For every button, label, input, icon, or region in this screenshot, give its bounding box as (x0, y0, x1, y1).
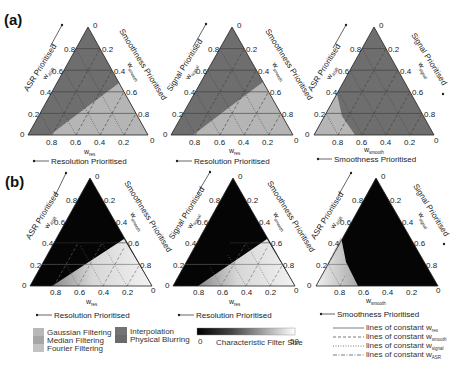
svg-text:0.2: 0.2 (390, 196, 402, 205)
svg-text:wsmooth: wsmooth (365, 297, 386, 306)
svg-text:0: 0 (165, 281, 170, 290)
svg-text:0.4: 0.4 (400, 67, 412, 76)
svg-text:0: 0 (379, 21, 384, 30)
svg-text:0.2: 0.2 (388, 45, 400, 54)
ternary-plot-b1: 0 0.8 0.6 0.4 0.2 0 0.2 0.4 0.6 0.8 0 0.… (22, 172, 174, 320)
svg-text:wsmooth: wsmooth (363, 146, 384, 155)
svg-text:0.4: 0.4 (238, 138, 250, 147)
svg-text:0.8: 0.8 (193, 288, 205, 297)
svg-text:wres: wres (228, 298, 241, 307)
svg-text:0.8: 0.8 (332, 138, 344, 147)
bottom-axis-title: Smoothness Prioritised (334, 155, 416, 164)
svg-text:0.4: 0.4 (94, 138, 106, 147)
svg-text:0.2: 0.2 (28, 110, 40, 119)
svg-text:0.6: 0.6 (128, 239, 140, 248)
svg-text:0.2: 0.2 (122, 288, 134, 297)
svg-text:0: 0 (150, 136, 155, 145)
svg-text:0: 0 (151, 286, 156, 295)
svg-text:0.4: 0.4 (116, 218, 128, 227)
bottom-axis-title: Resolution Prioritised (54, 311, 130, 320)
bottom-axis-title: Smoothness Prioritised (337, 310, 419, 319)
colorbar: 0 50 Characteristic Filter Size (197, 328, 303, 347)
svg-text:0.6: 0.6 (358, 288, 370, 297)
svg-text:0: 0 (20, 130, 25, 139)
svg-text:0.2: 0.2 (314, 110, 326, 119)
svg-text:0.2: 0.2 (102, 45, 114, 54)
svg-text:0: 0 (237, 21, 242, 30)
svg-text:0: 0 (294, 136, 299, 145)
svg-text:0.8: 0.8 (334, 288, 346, 297)
svg-text:0.2: 0.2 (247, 196, 259, 205)
bottom-axis-title: Resolution Prioritised (51, 157, 127, 166)
svg-text:0: 0 (434, 136, 439, 145)
svg-text:0.4: 0.4 (402, 218, 414, 227)
line-style-legend: lines of constant wres lines of constant… (333, 323, 447, 360)
svg-text:0.4: 0.4 (184, 88, 196, 97)
right-axis-title: Signal Prioritised (411, 182, 450, 238)
svg-text:0.4: 0.4 (258, 67, 270, 76)
svg-text:0.4: 0.4 (114, 67, 126, 76)
svg-text:0.6: 0.6 (338, 67, 350, 76)
svg-text:0.6: 0.6 (271, 239, 283, 248)
svg-text:0.4: 0.4 (380, 138, 392, 147)
svg-text:0.2: 0.2 (406, 288, 418, 297)
svg-text:0.4: 0.4 (241, 288, 253, 297)
ternary-figure: (a) (b) 0 0.8 0.6 0.4 0.2 0 (0, 0, 461, 378)
left-axis-title: ASR Prioritised (309, 190, 345, 241)
svg-text:0.8: 0.8 (209, 196, 221, 205)
bottom-axis-title: Resolution Prioritised (196, 311, 272, 320)
panel-label-a: (a) (4, 11, 22, 28)
svg-text:0: 0 (163, 130, 168, 139)
svg-text:0.8: 0.8 (282, 110, 294, 119)
svg-text:0: 0 (238, 172, 243, 181)
colorbar-label: Characteristic Filter Size (216, 338, 303, 347)
method-legend: Gaussian Filtering Median Filtering Four… (33, 327, 190, 353)
svg-text:0: 0 (95, 172, 100, 181)
svg-text:wres: wres (85, 298, 98, 307)
right-axis-title: Signal Prioritised (409, 31, 448, 87)
svg-text:0: 0 (294, 286, 299, 295)
svg-text:0.4: 0.4 (259, 218, 271, 227)
right-axis-title: Smoothness Prioritised (117, 27, 168, 102)
ternary-plot-b3: 0 0.8 0.6 0.4 0.2 0 0.2 0.4 0.6 0.8 0 0.… (307, 172, 451, 319)
svg-text:0.8: 0.8 (50, 288, 62, 297)
legend-fourier: Fourier Filtering (47, 344, 103, 353)
svg-text:0.2: 0.2 (404, 138, 416, 147)
svg-text:0.4: 0.4 (42, 239, 54, 248)
svg-text:0.4: 0.4 (382, 288, 394, 297)
ternary-plot-a2: 0 0.8 0.6 0.4 0.2 0 0.2 0.4 0.6 0.8 0 0.… (163, 21, 315, 166)
colorbar-min: 0 (198, 337, 203, 346)
svg-text:0: 0 (22, 281, 27, 290)
ternary-plot-a1: 0 0.8 0.6 0.4 0.2 0 0.2 0.4 0.6 0.8 0 0.… (20, 21, 169, 166)
svg-text:0.2: 0.2 (30, 261, 42, 270)
svg-text:0.6: 0.6 (214, 138, 226, 147)
svg-text:0.8: 0.8 (138, 110, 150, 119)
svg-text:0.4: 0.4 (98, 288, 110, 297)
left-axis-title: Signal Prioritised (165, 37, 204, 93)
ternary-plot-b2: 0 0.8 0.6 0.4 0.2 0 0.2 0.4 0.6 0.8 0 0.… (165, 171, 317, 320)
svg-text:0.6: 0.6 (74, 288, 86, 297)
svg-text:0.6: 0.6 (70, 138, 82, 147)
svg-text:0.4: 0.4 (40, 88, 52, 97)
svg-text:0.6: 0.6 (217, 288, 229, 297)
svg-text:0.2: 0.2 (262, 138, 274, 147)
svg-text:0.6: 0.6 (414, 239, 426, 248)
svg-text:0.8: 0.8 (140, 261, 152, 270)
svg-text:0.8: 0.8 (64, 45, 76, 54)
svg-text:0.6: 0.6 (126, 88, 138, 97)
svg-text:0.6: 0.6 (412, 88, 424, 97)
svg-text:0.8: 0.8 (283, 261, 295, 270)
svg-text:0.4: 0.4 (326, 88, 338, 97)
svg-text:0: 0 (381, 172, 386, 181)
ternary-plot-a3: 0 0.8 0.6 0.4 0.2 0 0.2 0.4 0.6 0.8 0 0.… (305, 21, 449, 164)
svg-text:0.8: 0.8 (426, 261, 438, 270)
svg-text:0.2: 0.2 (104, 196, 116, 205)
svg-text:0.8: 0.8 (424, 110, 436, 119)
svg-text:0.4: 0.4 (328, 239, 340, 248)
left-axis-title: Signal Prioritised (167, 185, 206, 241)
svg-text:0: 0 (436, 286, 441, 295)
svg-text:0: 0 (93, 21, 98, 30)
svg-text:0.8: 0.8 (350, 45, 362, 54)
svg-text:0.6: 0.6 (270, 88, 282, 97)
svg-text:0.8: 0.8 (46, 138, 58, 147)
